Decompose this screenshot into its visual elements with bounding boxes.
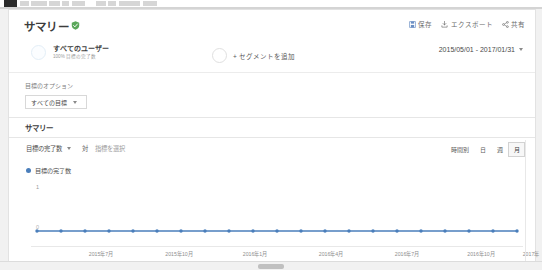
chart-data-point[interactable] (59, 229, 62, 232)
chart-data-point[interactable] (347, 229, 350, 232)
tab-title-glyph (108, 1, 116, 6)
x-axis-label: 2016年10月 (467, 250, 494, 257)
chart-legend: 目標の完了数 (26, 166, 71, 175)
export-label: エクスポート (451, 19, 493, 29)
tab-summary[interactable]: サマリー (25, 122, 53, 137)
tab-title-glyph (143, 1, 157, 6)
goal-completions-chart: 目標の完了数 1 0 2015年7月 2015年10月 2016年1月 2016… (9, 162, 535, 261)
segment-bar: すべてのユーザー 100% 目標の完了数 + セグメントを追加 2015/05/… (9, 40, 535, 73)
granularity-toggle-group: 時間別 日 週 月 (445, 142, 525, 157)
granularity-weekly[interactable]: 週 (491, 142, 508, 157)
primary-metric-dropdown[interactable]: 目標の完了数 (26, 144, 71, 153)
save-label: 保存 (418, 19, 432, 29)
x-axis: 2015年7月 2015年10月 2016年1月 2016年4月 2016年7月… (31, 246, 523, 260)
chart-plot-area (31, 176, 523, 244)
segment-all-users[interactable]: すべてのユーザー 100% 目標の完了数 (31, 44, 109, 61)
chart-svg (31, 176, 523, 244)
add-segment-button[interactable]: + セグメントを追加 (212, 48, 295, 63)
chevron-down-icon (67, 147, 71, 150)
goal-options-label: 目標のオプション (25, 81, 73, 90)
share-button[interactable]: 共有 (502, 19, 526, 29)
chart-data-point[interactable] (323, 229, 326, 232)
share-icon (502, 21, 509, 28)
chart-data-point[interactable] (491, 229, 494, 232)
tab-title-glyph (72, 1, 85, 6)
chart-data-point[interactable] (35, 229, 38, 232)
x-axis-label: 2015年10月 (165, 250, 192, 257)
chevron-down-icon (73, 101, 77, 104)
header-actions: 保存 エクスポート 共有 (409, 19, 526, 29)
horizontal-scrollbar[interactable] (0, 261, 542, 270)
legend-color-swatch (26, 168, 31, 173)
x-axis-label: 2016年1月 (243, 250, 267, 257)
browser-tab-strip (0, 0, 542, 9)
goal-select-dropdown[interactable]: すべての目標 (25, 95, 87, 109)
secondary-metric-selector[interactable]: 指標を選択 (95, 144, 125, 153)
tab-title-glyph (119, 1, 140, 6)
tab-strip: サマリー (9, 118, 535, 138)
granularity-daily[interactable]: 日 (474, 142, 491, 157)
export-button[interactable]: エクスポート (441, 19, 493, 29)
chevron-down-icon (519, 48, 523, 51)
chart-data-point[interactable] (371, 229, 374, 232)
tab-title-glyph (62, 1, 69, 6)
chart-data-point[interactable] (395, 229, 398, 232)
metric-selector-row: 目標の完了数 対 指標を選択 時間別 日 週 月 (9, 138, 535, 162)
tab-title-glyph (31, 1, 47, 6)
tab-title-glyph (96, 1, 106, 6)
share-label: 共有 (511, 19, 525, 29)
segment-subtext: 100% 目標の完了数 (53, 53, 109, 61)
x-axis-label: 2016年4月 (319, 250, 343, 257)
add-segment-circle-icon (212, 48, 227, 63)
save-icon (409, 21, 416, 28)
add-segment-label: + セグメントを追加 (233, 51, 295, 61)
chart-data-point[interactable] (419, 229, 422, 232)
chart-data-point[interactable] (275, 229, 278, 232)
export-icon (441, 21, 448, 28)
save-button[interactable]: 保存 (409, 19, 433, 29)
chart-data-point[interactable] (155, 229, 158, 232)
chart-data-point[interactable] (203, 229, 206, 232)
chart-data-point[interactable] (83, 229, 86, 232)
chart-data-point[interactable] (227, 229, 230, 232)
goal-select-value: すべての目標 (31, 98, 67, 107)
primary-metric-label: 目標の完了数 (26, 144, 62, 153)
chart-data-point[interactable] (467, 229, 470, 232)
chart-data-point[interactable] (299, 229, 302, 232)
chart-data-point[interactable] (131, 229, 134, 232)
date-range-label: 2015/05/01 - 2017/01/31 (439, 46, 515, 53)
vs-label: 対 (82, 144, 88, 153)
granularity-hourly[interactable]: 時間別 (445, 142, 474, 157)
report-header: サマリー 保存 (9, 10, 535, 40)
tab-title-glyph (49, 1, 60, 6)
date-range-picker[interactable]: 2015/05/01 - 2017/01/31 (439, 46, 523, 53)
segment-name: すべてのユーザー (53, 44, 109, 53)
chart-data-point[interactable] (515, 229, 518, 232)
x-axis-label: 2016年7月 (395, 250, 419, 257)
chart-data-point[interactable] (107, 229, 110, 232)
scrollbar-thumb[interactable] (258, 264, 284, 269)
report-card: サマリー 保存 (8, 9, 536, 261)
legend-label: 目標の完了数 (35, 166, 71, 175)
chart-data-point[interactable] (251, 229, 254, 232)
tab-title-glyph (20, 1, 29, 6)
analytics-goals-overview-screen: サマリー 保存 (0, 0, 542, 270)
granularity-monthly[interactable]: 月 (508, 142, 525, 157)
segment-text: すべてのユーザー 100% 目標の完了数 (53, 44, 109, 61)
segment-donut-icon (31, 45, 46, 60)
page-title: サマリー (24, 18, 69, 34)
goal-options-panel: 目標のオプション すべての目標 (9, 73, 535, 118)
panel-divider (525, 140, 526, 262)
chart-data-point[interactable] (443, 229, 446, 232)
shield-check-icon (71, 21, 80, 30)
x-axis-label: 2015年7月 (89, 250, 113, 257)
chart-data-point[interactable] (179, 229, 182, 232)
